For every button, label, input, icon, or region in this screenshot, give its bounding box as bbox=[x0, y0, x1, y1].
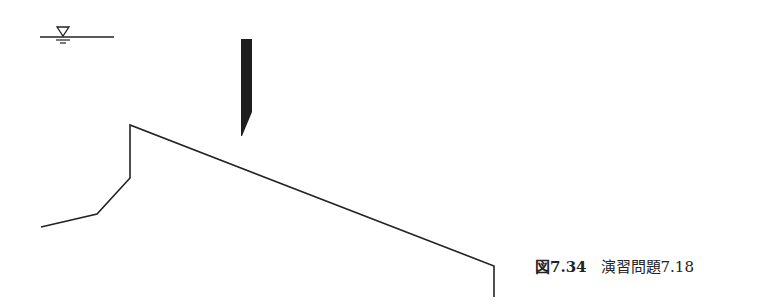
pile bbox=[241, 39, 252, 136]
water-level-triangle-icon bbox=[57, 27, 69, 36]
figure-caption: 図7.34演習問題7.18 bbox=[535, 255, 694, 276]
figure-caption-text: 演習問題7.18 bbox=[601, 258, 694, 276]
structure-profile bbox=[41, 125, 494, 297]
figure-label: 図7.34 bbox=[535, 258, 587, 276]
